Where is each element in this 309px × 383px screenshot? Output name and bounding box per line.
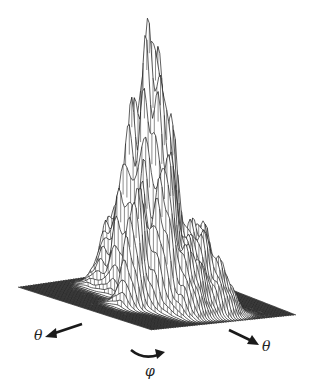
theta-left-arrow <box>45 324 82 338</box>
surface-plot-figure: θ θ φ <box>0 0 309 383</box>
theta-right-label: θ <box>262 338 271 354</box>
theta-right-arrow <box>229 330 259 345</box>
phi-label: φ <box>145 363 155 379</box>
phi-rotation-arrow <box>131 349 165 359</box>
wireframe-surface <box>18 18 296 330</box>
theta-left-label: θ <box>34 327 43 343</box>
